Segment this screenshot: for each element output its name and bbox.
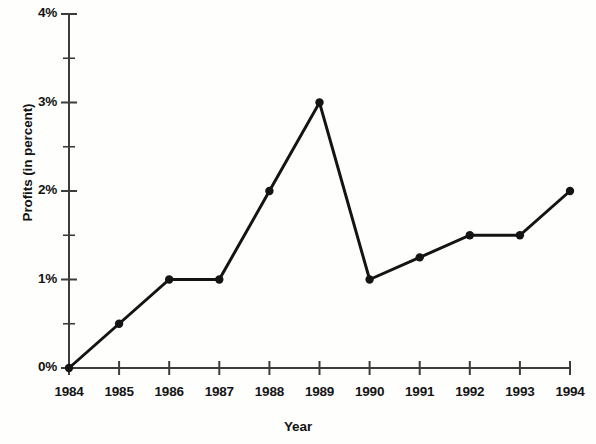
x-tick-label: 1988 xyxy=(241,384,297,399)
x-tick-label: 1990 xyxy=(342,384,398,399)
data-point-marker xyxy=(365,275,373,283)
data-point-marker xyxy=(315,98,323,106)
y-tick-label: 0% xyxy=(11,359,57,374)
y-tick-label: 4% xyxy=(11,5,57,20)
x-tick-label: 1991 xyxy=(392,384,448,399)
data-point-marker xyxy=(466,231,474,239)
data-point-marker xyxy=(416,253,424,261)
data-point-marker xyxy=(566,187,574,195)
data-series-line xyxy=(69,103,570,369)
chart-plot-area xyxy=(0,0,596,444)
x-tick-label: 1989 xyxy=(292,384,348,399)
line-chart: 4%3%2%1%0% 19841985198619871988198919901… xyxy=(0,0,596,444)
x-tick-label: 1994 xyxy=(542,384,596,399)
x-tick-label: 1985 xyxy=(91,384,147,399)
x-tick-label: 1992 xyxy=(442,384,498,399)
data-point-marker xyxy=(165,275,173,283)
data-point-marker xyxy=(215,275,223,283)
x-tick-label: 1984 xyxy=(41,384,97,399)
y-axis-title: Profits (in percent) xyxy=(20,63,35,263)
data-point-marker xyxy=(516,231,524,239)
data-point-marker xyxy=(265,187,273,195)
y-tick-label: 1% xyxy=(11,271,57,286)
x-tick-label: 1987 xyxy=(191,384,247,399)
axis-lines xyxy=(69,14,570,368)
data-point-marker xyxy=(65,364,73,372)
x-tick-label: 1993 xyxy=(492,384,548,399)
data-point-marker xyxy=(115,320,123,328)
x-axis-title: Year xyxy=(0,419,596,434)
x-tick-label: 1986 xyxy=(141,384,197,399)
